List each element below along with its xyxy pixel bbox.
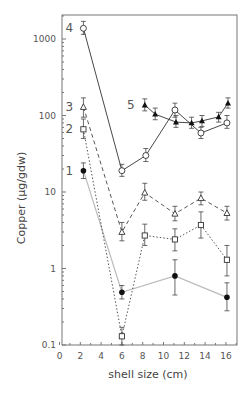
x-tick-label: 16 xyxy=(220,351,232,361)
data-point xyxy=(119,168,125,174)
y-axis: 0.11101001000 xyxy=(33,16,66,350)
y-tick-label: 1000 xyxy=(33,34,56,44)
data-point xyxy=(198,222,203,227)
x-tick-label: 12 xyxy=(179,351,190,361)
series-labels: 12345 xyxy=(66,21,135,177)
data-point xyxy=(224,120,230,126)
y-tick-label: 0.1 xyxy=(42,340,56,350)
data-point xyxy=(198,130,204,136)
data-point xyxy=(142,189,148,195)
data-point xyxy=(119,334,124,339)
x-tick-label: 6 xyxy=(119,351,125,361)
data-point xyxy=(81,127,86,132)
data-point xyxy=(143,153,149,159)
chart: 0246810121416 0.11101001000 12345 shell … xyxy=(0,0,250,400)
data-point xyxy=(198,195,204,201)
x-axis-title: shell size (cm) xyxy=(108,368,187,381)
series-label-4: 4 xyxy=(66,21,74,35)
series-label-2: 2 xyxy=(66,122,74,136)
x-tick-label: 2 xyxy=(77,351,83,361)
data-point xyxy=(224,257,229,262)
x-tick-label: 4 xyxy=(98,351,104,361)
data-point xyxy=(80,25,86,31)
series-label-3: 3 xyxy=(66,100,74,114)
data-point xyxy=(224,210,230,216)
data-point xyxy=(172,237,177,242)
data-point xyxy=(172,211,178,217)
data-point xyxy=(119,229,125,235)
plot-frame xyxy=(62,15,237,345)
data-point xyxy=(224,295,230,301)
series-4 xyxy=(80,21,230,176)
y-axis-title: Copper (μg/gdw) xyxy=(15,152,28,244)
data-point xyxy=(225,100,231,106)
y-tick-label: 100 xyxy=(39,111,56,121)
data-point xyxy=(142,102,148,108)
data-point xyxy=(172,273,178,279)
data-point xyxy=(81,168,87,174)
series-layer xyxy=(80,21,231,345)
y-tick-label: 10 xyxy=(45,187,57,197)
data-point xyxy=(80,104,86,110)
series-label-1: 1 xyxy=(66,164,74,178)
x-tick-label: 0 xyxy=(57,351,63,361)
data-point xyxy=(172,107,178,113)
x-tick-label: 10 xyxy=(158,351,170,361)
x-tick-label: 8 xyxy=(140,351,146,361)
y-tick-label: 1 xyxy=(50,264,56,274)
data-point xyxy=(142,233,147,238)
series-5 xyxy=(142,98,231,128)
x-tick-label: 14 xyxy=(199,351,211,361)
data-point xyxy=(119,289,125,295)
series-label-5: 5 xyxy=(127,98,135,112)
